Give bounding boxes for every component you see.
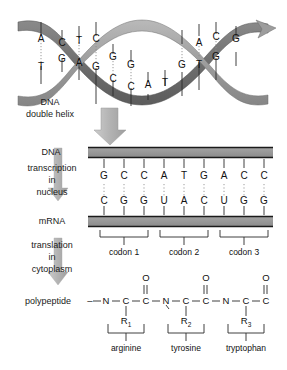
carbonyl-oxygen-2: O bbox=[200, 273, 212, 283]
helix-base: C bbox=[106, 74, 120, 84]
stage-label-translation-in: in bbox=[2, 252, 102, 263]
dna-strand-bar bbox=[88, 147, 273, 158]
codon-label-3: codon 3 bbox=[218, 247, 270, 257]
r-group-index: 3 bbox=[248, 321, 252, 328]
helix-base: A bbox=[192, 38, 206, 48]
backbone-atom-c3: C bbox=[260, 296, 272, 306]
helix-base: T bbox=[192, 60, 206, 70]
mrna-base: A bbox=[177, 196, 191, 206]
backbone-atom-ca1: C bbox=[120, 296, 132, 306]
mrna-base: G bbox=[257, 196, 271, 206]
amino-acid-name-2: tyrosine bbox=[157, 343, 215, 353]
dna-base: C bbox=[237, 171, 251, 181]
r-group-letter: R bbox=[121, 315, 128, 326]
r-group-3: R3 bbox=[237, 316, 255, 330]
codon-label-2: codon 2 bbox=[158, 247, 210, 257]
r-group-index: 2 bbox=[188, 321, 192, 328]
helix-base: A bbox=[141, 80, 155, 90]
mrna-base: U bbox=[217, 196, 231, 206]
dna-base: T bbox=[177, 171, 191, 181]
mrna-base: U bbox=[157, 196, 171, 206]
amino-acid-name-1: arginine bbox=[96, 343, 156, 353]
stage-label-nucleus: nucleus bbox=[2, 187, 102, 198]
stage-label-translation: translation bbox=[2, 240, 102, 251]
helix-base: A bbox=[34, 34, 48, 44]
backbone-atom-c1: C bbox=[140, 296, 152, 306]
stage-label-cytoplasm: cytoplasm bbox=[2, 264, 102, 275]
backbone-atom-n3: N bbox=[220, 296, 232, 306]
helix-label-line1: DNA bbox=[12, 97, 88, 108]
helix-base: G bbox=[106, 52, 120, 62]
helix-base: T bbox=[34, 62, 48, 72]
dna-base: A bbox=[217, 171, 231, 181]
stage-label-transcription-in: in bbox=[2, 175, 102, 186]
stage-label-transcription: transcription bbox=[2, 163, 102, 174]
mrna-base: G bbox=[237, 196, 251, 206]
backbone-atom-ca2: C bbox=[180, 296, 192, 306]
carbonyl-oxygen-1: O bbox=[140, 273, 152, 283]
mrna-strand-bar bbox=[88, 216, 273, 227]
backbone-atom-ca3: C bbox=[240, 296, 252, 306]
mrna-base: G bbox=[137, 196, 151, 206]
codon-label-1: codon 1 bbox=[98, 247, 150, 257]
helix-base: A bbox=[72, 58, 86, 68]
helix-base: C bbox=[209, 32, 223, 42]
stage-label-polypeptide: polypeptide bbox=[0, 296, 96, 307]
helix-base: C bbox=[55, 38, 69, 48]
r-group-letter: R bbox=[181, 315, 188, 326]
r-group-index: 1 bbox=[128, 321, 132, 328]
helix-base: T bbox=[72, 36, 86, 46]
backbone-atom-n1: N bbox=[100, 296, 112, 306]
dna-base: A bbox=[157, 171, 171, 181]
r-group-1: R1 bbox=[117, 316, 135, 330]
stage-label-mrna: mRNA bbox=[18, 216, 86, 227]
carbonyl-oxygen-3: O bbox=[260, 273, 272, 283]
helix-base: G bbox=[55, 54, 69, 64]
figure-canvas: A T C G T A C G G C G C A T G A T C G G … bbox=[0, 0, 287, 370]
helix-base: G bbox=[209, 52, 223, 62]
dna-base: C bbox=[117, 171, 131, 181]
helix-base: G bbox=[229, 34, 243, 44]
helix-to-dna-arrow bbox=[94, 108, 126, 145]
dna-base: G bbox=[97, 171, 111, 181]
backbone-atom-n2: N bbox=[160, 296, 172, 306]
codon-brackets bbox=[100, 230, 268, 245]
helix-base: G bbox=[124, 60, 138, 70]
dna-base: C bbox=[257, 171, 271, 181]
stage-label-dna: DNA bbox=[20, 147, 82, 158]
strand-base-ticks bbox=[104, 159, 264, 215]
dna-base: C bbox=[137, 171, 151, 181]
helix-base: G bbox=[175, 60, 189, 70]
r-group-letter: R bbox=[241, 315, 248, 326]
backbone-atom-c2: C bbox=[200, 296, 212, 306]
helix-label-line2: double helix bbox=[2, 109, 98, 120]
strand-bars bbox=[88, 147, 273, 227]
helix-base: T bbox=[158, 78, 172, 88]
carbonyl-double-bonds bbox=[144, 285, 267, 294]
amino-acid-name-3: tryptophan bbox=[213, 343, 279, 353]
helix-base: C bbox=[124, 82, 138, 92]
chain-leading-dash: – bbox=[84, 296, 96, 306]
mrna-base: G bbox=[117, 196, 131, 206]
helix-base: C bbox=[89, 34, 103, 44]
polypeptide-bonds bbox=[93, 301, 260, 316]
mrna-base: C bbox=[197, 196, 211, 206]
r-group-2: R2 bbox=[177, 316, 195, 330]
helix-base: G bbox=[89, 62, 103, 72]
mrna-base: C bbox=[97, 196, 111, 206]
dna-base: G bbox=[197, 171, 211, 181]
